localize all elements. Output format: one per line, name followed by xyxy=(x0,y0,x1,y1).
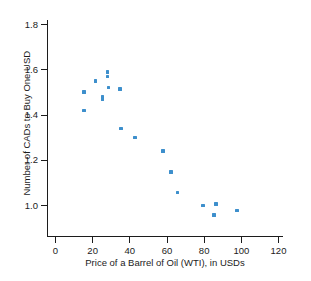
data-point xyxy=(106,75,110,79)
data-point xyxy=(235,209,239,213)
data-point xyxy=(212,213,216,217)
x-axis-tick-label: 80 xyxy=(199,246,210,256)
x-axis-title: Price of a Barrel of Oil (WTI), in USDs xyxy=(47,258,283,268)
x-axis-tick-label: 40 xyxy=(125,246,136,256)
plot-area xyxy=(47,18,283,236)
x-axis-tick: 80 xyxy=(204,237,205,243)
x-axis-tick: 20 xyxy=(92,237,93,243)
data-point xyxy=(118,87,122,91)
data-point xyxy=(214,202,218,206)
y-axis-title: Number of CADs to Buy One USD xyxy=(22,28,32,218)
x-axis-tick-label: 60 xyxy=(162,246,173,256)
x-axis-tick-label: 0 xyxy=(53,246,58,256)
x-axis-line xyxy=(47,236,283,237)
x-axis-tick: 40 xyxy=(129,237,130,243)
data-point xyxy=(169,170,173,174)
data-point xyxy=(107,86,111,90)
x-axis-tick-label: 20 xyxy=(87,246,98,256)
data-point xyxy=(133,136,137,140)
data-point xyxy=(119,127,123,131)
data-point xyxy=(82,109,86,113)
x-axis-tick: 60 xyxy=(167,237,168,243)
data-point xyxy=(106,70,110,74)
data-point xyxy=(201,204,205,208)
x-axis-tick: 0 xyxy=(55,237,56,243)
x-axis-tick-label: 120 xyxy=(271,246,287,256)
x-axis-tick: 120 xyxy=(278,237,279,243)
scatter-chart-figure: 1.01.21.41.61.8 020406080100120 Price of… xyxy=(0,0,311,281)
data-point xyxy=(94,79,98,83)
x-axis-tick: 100 xyxy=(241,237,242,243)
data-point xyxy=(82,90,86,94)
data-point xyxy=(101,97,105,101)
data-point xyxy=(176,191,180,195)
data-point xyxy=(161,149,165,153)
x-axis-tick-label: 100 xyxy=(233,246,249,256)
